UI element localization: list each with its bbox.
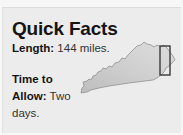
quick-facts-card: Quick Facts Length: 144 miles. Time to A… [2,7,181,133]
fact-length-label: Length: [12,42,54,54]
fact-time-label: Time to Allow: [12,73,53,102]
fact-time-to-allow: Time to Allow: Two days. [12,71,74,122]
kentucky-state-shape [81,42,175,93]
kentucky-map-icon [79,36,181,100]
